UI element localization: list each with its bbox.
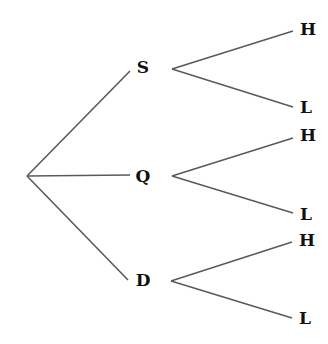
edge-root-d: [27, 176, 128, 280]
root-edges: [27, 71, 130, 280]
edge-s-l: [172, 69, 293, 107]
node-q-h: H: [300, 127, 316, 144]
node-s-l: L: [300, 99, 312, 116]
edge-q-l: [172, 176, 293, 213]
node-d-l: L: [299, 310, 311, 327]
tree-diagram: [0, 0, 328, 344]
edge-d-l: [171, 281, 292, 318]
edge-root-q: [27, 175, 130, 176]
node-q: Q: [136, 168, 151, 185]
node-q-l: L: [300, 206, 312, 223]
leaf-edges: [171, 31, 293, 318]
node-s: S: [137, 59, 149, 76]
edge-s-h: [172, 31, 293, 69]
edge-q-h: [172, 138, 293, 176]
node-d-h: H: [299, 232, 315, 249]
edge-d-h: [171, 242, 292, 281]
edge-root-s: [27, 71, 130, 176]
node-d: D: [136, 272, 151, 289]
node-s-h: H: [300, 21, 316, 38]
